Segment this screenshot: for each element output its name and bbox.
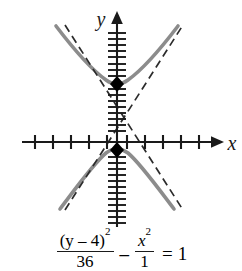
numerator-left-exponent: 2 [105,225,111,237]
hyperbola-plot: y x [0,0,242,271]
y-axis-arrowhead [111,11,123,24]
asymptotes [65,25,183,210]
x-axis-label: x [227,132,237,154]
fraction-right: x2 1 [135,232,154,271]
y-axis-label: y [95,8,106,31]
hyperbola-figure: y x (y – 4)2 36 – x2 1 = 1 [0,0,242,271]
equation-caption: (y – 4)2 36 – x2 1 = 1 [0,232,242,271]
equation-equals-sign: = [162,244,173,263]
equation-minus-operator: – [120,244,130,263]
vertex-marker-lower [110,142,124,158]
fraction-left: (y – 4)2 36 [57,232,114,271]
y-axis [108,11,126,227]
equation-row: (y – 4)2 36 – x2 1 = 1 [55,232,188,271]
equation-right-side: 1 [178,244,188,263]
x-axis [22,135,224,149]
numerator-left-base: (y – 4) [60,231,105,250]
numerator-right-exponent: 2 [146,225,152,237]
fraction-right-denominator: 1 [137,252,152,271]
fraction-left-denominator: 36 [74,252,97,271]
fraction-left-numerator: (y – 4)2 [57,232,114,251]
x-axis-arrowhead [211,136,224,148]
numerator-right-base: x [138,231,146,250]
fraction-right-numerator: x2 [135,232,154,251]
